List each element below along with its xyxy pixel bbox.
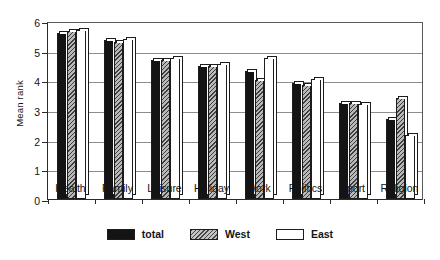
- category-label-holiday: Holiday: [194, 182, 229, 194]
- x-axis-tick: [377, 199, 378, 204]
- legend-entry-west[interactable]: West: [190, 228, 250, 240]
- x-axis-tick: [330, 199, 331, 204]
- category-label-religion: Religion: [381, 182, 419, 194]
- bar-side-face: [368, 102, 371, 195]
- legend-swatch-west: [190, 229, 218, 240]
- x-axis-tick: [236, 199, 237, 204]
- bar-health-west: [67, 31, 77, 199]
- y-axis-tick-label: 3: [18, 107, 40, 118]
- legend-swatch-total: [107, 229, 135, 240]
- bar-side-face: [133, 37, 136, 195]
- category-label-work: Work: [246, 182, 270, 194]
- category-label-leisure: Leisure: [147, 182, 181, 194]
- bar-leisure-total: [151, 60, 161, 199]
- y-axis-tick: [42, 142, 48, 143]
- y-axis-tick-label: 5: [18, 47, 40, 58]
- x-axis-tick: [283, 199, 284, 204]
- y-axis-tick: [42, 82, 48, 83]
- bar-holiday-east: [217, 64, 227, 199]
- x-axis-tick: [48, 199, 49, 204]
- legend-swatch-east: [276, 229, 304, 240]
- bar-side-face: [227, 62, 230, 195]
- y-axis-tick-label: 1: [18, 166, 40, 177]
- category-label-politics: Politics: [289, 182, 322, 194]
- legend-entry-total[interactable]: total: [107, 228, 164, 240]
- bar-holiday-west: [208, 66, 218, 200]
- y-axis-tick-label: 4: [18, 77, 40, 88]
- bar-family-total: [104, 40, 114, 199]
- category-label-health: Health: [55, 182, 85, 194]
- y-axis-tick-label: 2: [18, 136, 40, 147]
- legend-label-total: total: [142, 228, 164, 240]
- bar-work-total: [245, 71, 255, 199]
- bar-family-west: [114, 42, 124, 199]
- y-axis-tick-label: 6: [18, 18, 40, 29]
- x-axis-tick: [424, 199, 425, 204]
- y-axis-tick: [42, 23, 48, 24]
- bar-politics-east: [311, 79, 321, 199]
- y-axis-tick: [42, 112, 48, 113]
- bar-family-east: [123, 39, 133, 199]
- category-label-sport: Sport: [340, 182, 365, 194]
- legend-label-west: West: [225, 228, 250, 240]
- bar-chart-figure: Mean rank 0123456 HealthFamilyLeisureHol…: [0, 0, 440, 260]
- y-axis-tick: [42, 53, 48, 54]
- x-axis-tick: [142, 199, 143, 204]
- legend-label-east: East: [311, 228, 333, 240]
- chart-legend: totalWestEast: [0, 228, 440, 240]
- x-axis-tick: [189, 199, 190, 204]
- plot-area: 0123456: [47, 22, 423, 200]
- bar-health-east: [76, 30, 86, 199]
- bar-side-face: [321, 77, 324, 195]
- category-label-family: Family: [102, 182, 133, 194]
- y-axis-tick-label: 0: [18, 196, 40, 207]
- bar-holiday-total: [198, 66, 208, 200]
- bar-leisure-east: [170, 58, 180, 199]
- bar-side-face: [274, 56, 277, 195]
- bar-health-total: [57, 33, 67, 199]
- y-axis-tick: [42, 171, 48, 172]
- bar-side-face: [86, 28, 89, 195]
- x-axis-tick: [95, 199, 96, 204]
- legend-entry-east[interactable]: East: [276, 228, 333, 240]
- bar-work-east: [264, 58, 274, 199]
- bar-side-face: [180, 56, 183, 195]
- bar-leisure-west: [161, 60, 171, 199]
